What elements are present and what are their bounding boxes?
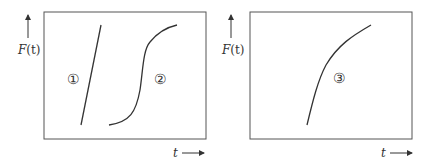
panel-right: F(t) t ③ (221, 12, 412, 160)
curve-3-marker: ③ (333, 70, 346, 86)
curve-2-sigmoid (109, 25, 177, 125)
plot-frame (250, 12, 412, 139)
curve-2-marker: ② (154, 71, 167, 87)
diagram-canvas: F(t) t ① ② F(t) t ③ (0, 0, 428, 166)
y-axis-label: F(t) (17, 43, 41, 57)
curve-1-marker: ① (67, 71, 80, 87)
x-axis-label: t (173, 146, 178, 160)
y-axis-label: F(t) (221, 43, 245, 57)
x-axis-label: t (381, 146, 386, 160)
panel-left: F(t) t ① ② (17, 12, 206, 160)
curve-1-line (81, 25, 101, 125)
